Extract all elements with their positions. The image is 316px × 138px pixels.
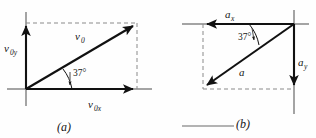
vector-v0y-label: v	[4, 42, 9, 54]
panel-a-caption: (a)	[57, 120, 71, 134]
vector-v0-label-sub: 0	[81, 36, 85, 45]
panel-a: 37° v 0 v 0x v 0y (a)	[4, 12, 152, 134]
vector-diagram: 37° v 0 v 0x v 0y (a) 37° a x a y	[0, 0, 316, 138]
panel-b-caption: (b)	[236, 117, 250, 131]
vector-ay-label-sub: y	[303, 62, 308, 71]
vector-v0y-label-sub: 0y	[10, 48, 18, 57]
vector-ax-label-sub: x	[230, 14, 235, 23]
panel-a-angle-label: 37°	[73, 68, 87, 78]
vector-a-label: a	[239, 66, 245, 78]
panel-b-angle-label: 37°	[238, 32, 252, 42]
vector-v0x-label-sub: 0x	[94, 104, 102, 113]
figure-container: 37° v 0 v 0x v 0y (a) 37° a x a y	[0, 0, 316, 138]
vector-v0x-label: v	[88, 98, 93, 110]
panel-b: 37° a x a y a (b)	[182, 8, 309, 131]
panel-a-angle-arc	[63, 69, 72, 89]
vector-v0-label: v	[75, 30, 80, 42]
